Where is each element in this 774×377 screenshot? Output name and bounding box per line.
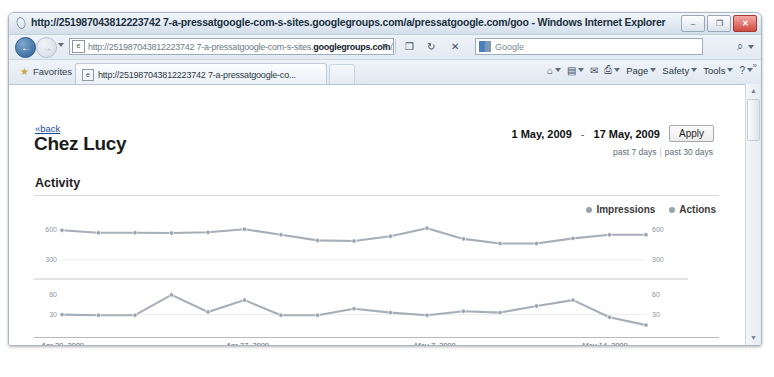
chevron-down-icon[interactable] [555,68,561,72]
window-controls: – ❐ ✕ [681,15,757,32]
page-content: «back Chez Lucy 1 May, 2009 - 17 May, 20… [9,85,746,345]
read-mail-button[interactable]: ✉ [588,65,600,76]
chevron-down-icon[interactable] [727,68,733,72]
data-point[interactable] [133,313,137,317]
feeds-button[interactable]: ▤ [565,65,586,76]
legend-dot-icon [586,207,592,213]
page-favicon-icon: e [72,40,85,53]
minimize-button[interactable]: – [681,15,705,32]
past-7-days-link[interactable]: past 7 days [613,147,656,157]
forward-button[interactable]: → [36,37,57,58]
data-point[interactable] [607,233,611,237]
address-input[interactable]: e http://251987043812223742 7-a-pressatg… [69,38,394,55]
data-point[interactable] [352,239,356,243]
chevron-down-icon[interactable] [691,68,697,72]
data-point[interactable] [206,230,210,234]
scrollbar-thumb[interactable] [747,99,760,141]
data-point[interactable] [388,234,392,238]
data-point[interactable] [60,312,64,316]
scroll-up-icon[interactable]: ▲ [746,84,761,98]
chevron-down-icon[interactable] [614,68,620,72]
data-point[interactable] [279,233,283,237]
search-provider-dropdown-icon[interactable] [748,45,754,49]
data-point[interactable] [60,228,64,232]
internet-explorer-icon [15,16,27,30]
search-input[interactable]: Google [475,38,703,55]
close-button[interactable]: ✕ [733,15,757,32]
y-tick-right: 600 [652,226,664,233]
data-point[interactable] [644,323,648,327]
data-point[interactable] [242,227,246,231]
mail-icon: ✉ [590,65,598,76]
vertical-scrollbar[interactable]: ▲ ▼ [745,84,761,345]
back-arrow-icon: ← [21,43,30,52]
data-point[interactable] [96,313,100,317]
url-prefix: http://251987043812223742 7-a-pressatgoo… [88,42,313,52]
chart-x-axis [34,337,719,338]
data-point[interactable] [461,237,465,241]
print-button[interactable]: ⎙ [602,64,622,76]
browser-tab[interactable]: e http://251987043812223742 7-a-pressatg… [75,63,327,86]
printer-icon: ⎙ [604,64,612,76]
page-menu[interactable]: Page [624,65,658,76]
chevron-down-icon[interactable] [578,68,584,72]
apply-button[interactable]: Apply [669,125,714,142]
y-tick-right: 60 [652,291,660,298]
data-point[interactable] [571,298,575,302]
data-point[interactable] [169,293,173,297]
tools-menu[interactable]: Tools [701,65,735,76]
home-icon: ⌂ [547,65,553,76]
maximize-button[interactable]: ❐ [707,15,731,32]
legend-item-impressions[interactable]: Impressions [586,204,655,215]
minimize-icon: – [682,20,704,27]
y-tick-left: 300 [45,256,57,263]
data-point[interactable] [169,231,173,235]
data-point[interactable] [279,313,283,317]
search-go-icon[interactable]: ⌕ [737,40,743,53]
stop-button[interactable]: ✕ [445,38,465,55]
data-point[interactable] [425,226,429,230]
data-point[interactable] [242,298,246,302]
data-point[interactable] [133,231,137,235]
quick-range-links: past 7 days|past 30 days [613,147,713,157]
history-dropdown-icon[interactable] [58,43,64,47]
data-point[interactable] [206,310,210,314]
data-point[interactable] [315,238,319,242]
window-title: http://251987043812223742 7-a-pressatgoo… [31,16,681,28]
data-point[interactable] [498,241,502,245]
back-button[interactable]: ← [15,37,36,58]
data-point[interactable] [534,304,538,308]
data-point[interactable] [315,313,319,317]
date-range-controls: 1 May, 2009 - 17 May, 2009 Apply [512,125,715,142]
data-point[interactable] [461,309,465,313]
favorites-button[interactable]: Favorites [33,66,72,77]
data-point[interactable] [607,315,611,319]
chevron-down-icon[interactable] [650,68,656,72]
data-point[interactable] [96,231,100,235]
refresh-button[interactable]: ↻ [421,38,441,55]
address-dropdown-icon[interactable] [382,44,388,48]
compatibility-view-button[interactable]: ❐ [399,38,419,55]
data-point[interactable] [571,236,575,240]
legend-label-actions: Actions [679,204,716,215]
page-menu-label: Page [626,65,648,76]
scroll-down-icon[interactable]: ▼ [746,331,761,345]
command-bar-overflow-icon[interactable]: » [753,61,757,70]
date-from-field[interactable]: 1 May, 2009 [512,128,572,140]
tab-favicon-icon: e [82,69,94,81]
data-point[interactable] [425,313,429,317]
date-to-field[interactable]: 17 May, 2009 [594,128,660,140]
data-point[interactable] [534,241,538,245]
data-point[interactable] [352,307,356,311]
activity-chart: 60060030030060603030 [34,219,688,335]
section-title: Activity [35,176,80,190]
data-point[interactable] [644,233,648,237]
y-tick-left: 60 [49,291,57,298]
past-30-days-link[interactable]: past 30 days [665,147,713,157]
safety-menu[interactable]: Safety [660,65,699,76]
home-button[interactable]: ⌂ [545,65,563,76]
new-tab-button[interactable] [329,64,355,85]
legend-item-actions[interactable]: Actions [669,204,716,215]
data-point[interactable] [388,310,392,314]
data-point[interactable] [498,310,502,314]
